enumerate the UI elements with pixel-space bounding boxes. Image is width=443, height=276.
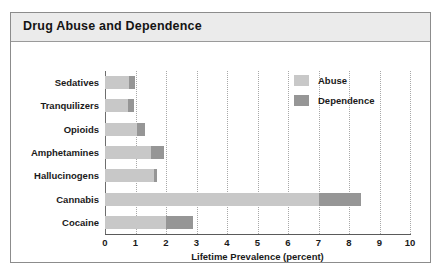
x-tick-label-8: 8 — [346, 237, 351, 248]
x-axis-tick-labels: 012345678910 — [105, 237, 410, 251]
bar-segment-dependence[interactable] — [128, 99, 134, 112]
bar-segment-dependence[interactable] — [154, 169, 157, 182]
category-label-cannabis: Cannabis — [13, 194, 99, 205]
gridline-5 — [258, 71, 259, 234]
bar-row[interactable] — [105, 169, 157, 182]
bar-row[interactable] — [105, 193, 361, 206]
x-tick-label-9: 9 — [377, 237, 382, 248]
category-label-hallucinogens: Hallucinogens — [13, 170, 99, 181]
x-tick-label-10: 10 — [405, 237, 416, 248]
legend-label-dependence: Dependence — [318, 95, 375, 106]
page-title: Drug Abuse and Dependence — [23, 19, 202, 33]
bar-segment-dependence[interactable] — [129, 76, 135, 89]
chart-legend: AbuseDependence — [294, 75, 375, 115]
bar-segment-abuse[interactable] — [105, 193, 319, 206]
bar-row[interactable] — [105, 216, 193, 229]
gridline-10 — [410, 71, 411, 234]
x-tick-label-1: 1 — [133, 237, 138, 248]
x-tick-label-2: 2 — [163, 237, 168, 248]
category-label-tranquilizers: Tranquilizers — [13, 100, 99, 111]
gridline-2 — [166, 71, 167, 234]
gridline-9 — [380, 71, 381, 234]
category-label-cocaine: Cocaine — [13, 217, 99, 228]
bar-segment-abuse[interactable] — [105, 169, 154, 182]
bar-segment-dependence[interactable] — [166, 216, 193, 229]
legend-item-dependence[interactable]: Dependence — [294, 95, 375, 106]
bar-segment-abuse[interactable] — [105, 216, 166, 229]
x-tick-label-4: 4 — [224, 237, 229, 248]
legend-label-abuse: Abuse — [318, 75, 347, 86]
x-tick-label-5: 5 — [255, 237, 260, 248]
x-tick-label-7: 7 — [316, 237, 321, 248]
gridline-3 — [197, 71, 198, 234]
category-label-amphetamines: Amphetamines — [13, 147, 99, 158]
bar-segment-abuse[interactable] — [105, 146, 151, 159]
bar-row[interactable] — [105, 123, 145, 136]
bar-segment-dependence[interactable] — [319, 193, 362, 206]
bar-segment-abuse[interactable] — [105, 123, 137, 136]
bar-row[interactable] — [105, 76, 135, 89]
category-label-opioids: Opioids — [13, 124, 99, 135]
figure-frame: Drug Abuse and Dependence SedativesTranq… — [10, 12, 431, 263]
x-tick-label-3: 3 — [194, 237, 199, 248]
legend-swatch-dependence — [294, 95, 309, 106]
legend-swatch-abuse — [294, 75, 309, 86]
x-axis-title: Lifetime Prevalence (percent) — [105, 251, 410, 262]
x-tick-label-0: 0 — [102, 237, 107, 248]
bar-row[interactable] — [105, 146, 164, 159]
bar-segment-dependence[interactable] — [151, 146, 165, 159]
chart-title-band: Drug Abuse and Dependence — [11, 13, 430, 42]
bar-segment-dependence[interactable] — [137, 123, 145, 136]
gridline-6 — [288, 71, 289, 234]
bar-segment-abuse[interactable] — [105, 76, 129, 89]
category-label-column: SedativesTranquilizersOpioidsAmphetamine… — [11, 71, 99, 234]
bar-segment-abuse[interactable] — [105, 99, 128, 112]
category-label-sedatives: Sedatives — [13, 77, 99, 88]
x-tick-label-6: 6 — [285, 237, 290, 248]
bar-row[interactable] — [105, 99, 134, 112]
legend-item-abuse[interactable]: Abuse — [294, 75, 375, 86]
gridline-4 — [227, 71, 228, 234]
x-axis-line — [105, 234, 411, 235]
